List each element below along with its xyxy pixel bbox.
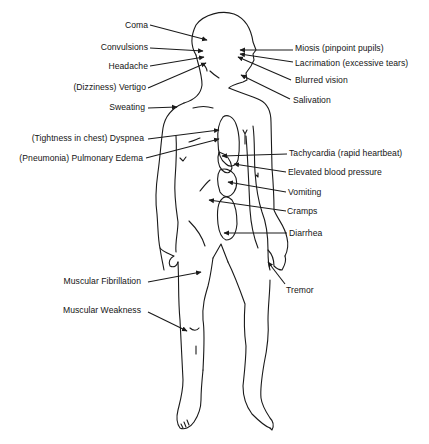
label-headache: Headache: [108, 61, 148, 71]
legs-outline: [177, 244, 273, 430]
organs: [180, 116, 258, 248]
symptom-diagram: Coma Convulsions Headache (Dizziness) Ve…: [0, 0, 429, 444]
label-muscular-weakness: Muscular Weakness: [63, 305, 141, 315]
label-vertigo: (Dizziness) Vertigo: [73, 82, 146, 92]
label-pulmonary-edema: (Pneumonia) Pulmonary Edema: [19, 153, 143, 163]
head-outline: [184, 12, 256, 103]
label-blurred-vision: Blurred vision: [295, 75, 348, 85]
label-convulsions: Convulsions: [101, 42, 148, 52]
label-tachycardia: Tachycardia (rapid heartbeat): [289, 148, 402, 158]
label-lacrimation: Lacrimation (excessive tears): [295, 58, 408, 68]
label-coma: Coma: [125, 20, 148, 30]
label-diarrhea: Diarrhea: [289, 228, 322, 238]
label-miosis: Miosis (pinpoint pupils): [295, 43, 384, 53]
label-cramps: Cramps: [287, 206, 317, 216]
label-vomiting: Vomiting: [288, 187, 321, 197]
label-dyspnea: (Tightness in chest) Dyspnea: [32, 133, 144, 143]
label-muscular-fibrillation: Muscular Fibrillation: [64, 276, 141, 286]
label-tremor: Tremor: [286, 285, 314, 295]
torso-outline: [156, 88, 288, 270]
label-sweating: Sweating: [109, 102, 145, 112]
pointer-arrows: [146, 25, 293, 331]
label-elevated-blood-pressure: Elevated blood pressure: [288, 167, 382, 177]
label-salivation: Salivation: [293, 95, 331, 105]
